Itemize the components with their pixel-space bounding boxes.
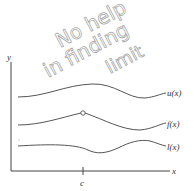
curve-l-label: l(x) bbox=[167, 142, 180, 152]
x-axis-label: x bbox=[171, 166, 176, 176]
curve-f-label: f(x) bbox=[167, 119, 180, 129]
curve-u bbox=[18, 84, 166, 98]
open-point-icon bbox=[81, 111, 85, 115]
curve-u-label: u(x) bbox=[167, 88, 182, 98]
curve-l bbox=[18, 140, 166, 152]
stray-mark bbox=[18, 139, 19, 140]
handwritten-annotation: No help in finding limit bbox=[39, 0, 147, 82]
c-tick-label: c bbox=[80, 178, 84, 188]
squeeze-theorem-figure: No help in finding limit y x c u(x) f(x)… bbox=[0, 0, 194, 191]
y-axis-label: y bbox=[6, 52, 11, 62]
curve-f bbox=[18, 113, 166, 130]
